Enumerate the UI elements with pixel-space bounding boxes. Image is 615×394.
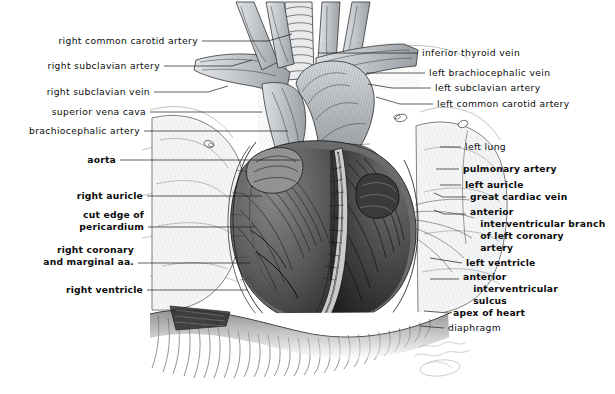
label-left-auricle: left auricle [465, 179, 524, 191]
label-right-ventricle: right ventricle [66, 284, 143, 296]
label-cut-edge-of-pericardium: cut edge of pericardium [79, 209, 144, 233]
label-brachiocephalic-artery: brachiocephalic artery [29, 125, 140, 137]
diaphragm [150, 306, 452, 378]
left-auricle [356, 174, 399, 219]
label-left-common-carotid-artery: left common carotid artery [437, 98, 570, 110]
label-inferior-thyroid-vein: inferior thyroid vein [422, 47, 520, 59]
label-superior-vena-cava: superior vena cava [52, 106, 146, 118]
label-aorta: aorta [87, 154, 116, 166]
label-anterior-interventricular-branch-of-left-coronary-artery: anterior interventricular branch of left… [470, 206, 605, 254]
leader-right-subclavian-vein [154, 86, 228, 92]
label-right-subclavian-vein: right subclavian vein [47, 86, 150, 98]
label-right-coronary-and-marginal-aa: right coronary and marginal aa. [43, 244, 134, 268]
label-diaphragm: diaphragm [448, 322, 501, 334]
label-right-common-carotid-artery: right common carotid artery [58, 35, 198, 47]
label-anterior-interventricular-sulcus: anterior interventricular sulcus [463, 271, 558, 307]
label-apex-of-heart: apex of heart [453, 307, 525, 319]
heart [225, 135, 425, 330]
anatomy-figure: right common carotid arteryright subclav… [0, 0, 615, 394]
label-great-cardiac-vein: great cardiac vein [470, 191, 567, 203]
label-right-subclavian-artery: right subclavian artery [48, 60, 160, 72]
leader-left-common-carotid-artery [376, 97, 433, 104]
label-left-lung: left lung [465, 141, 506, 153]
label-right-auricle: right auricle [77, 190, 143, 202]
label-left-brachiocephalic-vein: left brachiocephalic vein [429, 67, 550, 79]
label-left-ventricle: left ventricle [466, 257, 535, 269]
artist-signature [414, 342, 470, 378]
label-pulmonary-artery: pulmonary artery [463, 163, 557, 175]
label-left-subclavian-artery: left subclavian artery [435, 82, 540, 94]
